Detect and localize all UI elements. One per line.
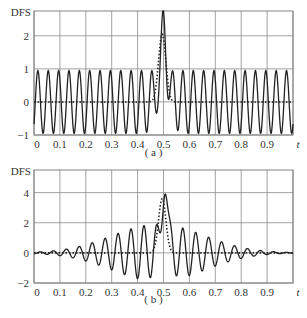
- chart-panel-b: −2024DFS00.10.20.30.40.50.60.70.80.9t( b…: [11, 165, 301, 306]
- x-tick-label: 0.4: [131, 138, 145, 150]
- y-tick-label: 0: [24, 247, 30, 259]
- x-tick-label: 0.3: [105, 138, 119, 150]
- y-tick-label: 2: [24, 217, 30, 229]
- panel-caption: ( a ): [145, 146, 163, 159]
- y-tick-label: 0: [24, 96, 30, 108]
- x-tick-label: 0.6: [183, 138, 197, 150]
- y-axis-label: DFS: [11, 165, 31, 177]
- x-tick-label: 0.8: [234, 138, 248, 150]
- y-axis-label: DFS: [11, 6, 31, 18]
- x-tick-label: 0.3: [105, 286, 119, 298]
- x-tick-label: 0.1: [53, 286, 67, 298]
- x-axis-label: t: [296, 286, 300, 298]
- y-tick-label: −1: [17, 129, 29, 141]
- x-axis-label: t: [296, 138, 300, 150]
- x-tick-label: 0.9: [260, 286, 274, 298]
- x-tick-label: 0.2: [79, 138, 93, 150]
- x-tick-label: 0.8: [234, 286, 248, 298]
- x-tick-label: 0.2: [79, 286, 93, 298]
- x-tick-label: 0: [34, 138, 40, 150]
- chart-figure: −1012DFS00.10.20.30.40.50.60.70.80.9t( a…: [0, 0, 307, 318]
- x-tick-label: 0.9: [260, 138, 274, 150]
- y-tick-label: 2: [24, 30, 30, 42]
- x-tick-label: 0: [34, 286, 40, 298]
- x-tick-label: 0.1: [53, 138, 67, 150]
- panel-caption: ( b ): [144, 293, 163, 306]
- x-tick-label: 0.6: [183, 286, 197, 298]
- x-tick-label: 0.7: [208, 286, 222, 298]
- chart-panel-a: −1012DFS00.10.20.30.40.50.60.70.80.9t( a…: [11, 6, 301, 159]
- y-tick-label: 4: [24, 187, 30, 199]
- x-tick-label: 0.4: [131, 286, 145, 298]
- x-tick-label: 0.7: [208, 138, 222, 150]
- y-tick-label: 1: [24, 63, 30, 75]
- y-tick-label: −2: [17, 277, 29, 289]
